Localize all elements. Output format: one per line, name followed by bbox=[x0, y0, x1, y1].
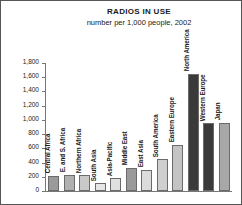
y-tick: 400 bbox=[1, 163, 46, 164]
bar bbox=[203, 123, 214, 191]
bar-group: Eastern Europe bbox=[172, 63, 183, 191]
bar-category-label: Eastern Europe bbox=[168, 98, 174, 143]
bar-category-label: Northern Africa bbox=[75, 129, 81, 173]
y-tick-label: 1,000 bbox=[23, 115, 39, 122]
chart-subtitle: number per 1,000 people, 2002 bbox=[35, 18, 242, 28]
y-tick-label: 1,200 bbox=[23, 101, 39, 108]
bar-group: Northern Africa bbox=[79, 63, 90, 191]
bar-category-label: South Asia bbox=[91, 150, 97, 182]
y-tick: 800 bbox=[1, 134, 46, 135]
bar bbox=[188, 74, 199, 191]
bar-series: Central AfricaE. and S. AfricaNorthern A… bbox=[46, 63, 232, 191]
bar bbox=[48, 176, 59, 191]
bar-category-label: E. and S. Africa bbox=[60, 128, 66, 172]
bar bbox=[64, 175, 75, 191]
bar-group: E. and S. Africa bbox=[64, 63, 75, 191]
bar-category-label: Middle East bbox=[122, 132, 128, 166]
bar-group: Japan bbox=[219, 63, 230, 191]
bar bbox=[157, 159, 168, 191]
y-tick-label: 600 bbox=[28, 143, 39, 150]
y-tick: 1,200 bbox=[1, 106, 46, 107]
y-tick-label: 200 bbox=[28, 172, 39, 179]
y-tick: 1,400 bbox=[1, 91, 46, 92]
y-tick: 0 bbox=[1, 191, 46, 192]
chart-header: RADIOS IN USE number per 1,000 people, 2… bbox=[1, 7, 242, 28]
y-tick: 600 bbox=[1, 148, 46, 149]
bar-category-label: North America bbox=[184, 30, 190, 72]
bar-group: Western Europe bbox=[203, 63, 214, 191]
bar bbox=[219, 123, 230, 191]
y-tick-label: 1,800 bbox=[23, 58, 39, 65]
bar-group: Central Africa bbox=[48, 63, 59, 191]
plot-area: 1,8001,6001,4001,2001,0008006004002000 C… bbox=[46, 63, 232, 191]
y-tick-label: 800 bbox=[28, 129, 39, 136]
bar-category-label: East Asia bbox=[137, 140, 143, 167]
y-tick-label: 1,400 bbox=[23, 86, 39, 93]
chart-page: RADIOS IN USE number per 1,000 people, 2… bbox=[0, 0, 242, 205]
y-tick: 1,800 bbox=[1, 63, 46, 64]
bar-category-label: South America bbox=[153, 114, 159, 157]
y-tick: 1,000 bbox=[1, 120, 46, 121]
y-tick-label: 400 bbox=[28, 158, 39, 165]
bar-group: South America bbox=[157, 63, 168, 191]
y-tick-mark bbox=[42, 191, 46, 192]
chart-title: RADIOS IN USE bbox=[35, 7, 242, 17]
y-tick-label: 0 bbox=[35, 186, 39, 193]
bar bbox=[110, 178, 121, 191]
bar-group: East Asia bbox=[141, 63, 152, 191]
bar bbox=[95, 183, 106, 191]
bar bbox=[141, 170, 152, 191]
bar-category-label: Japan bbox=[215, 103, 221, 121]
bar-group: Middle East bbox=[126, 63, 137, 191]
bar-group: Asia-Pacific bbox=[110, 63, 121, 191]
y-tick-label: 1,600 bbox=[23, 72, 39, 79]
x-axis-line bbox=[45, 191, 232, 192]
bar-category-label: Western Europe bbox=[199, 75, 205, 122]
bar-group: South Asia bbox=[95, 63, 106, 191]
bar-category-label: Asia-Pacific bbox=[106, 142, 112, 177]
y-tick: 200 bbox=[1, 177, 46, 178]
bar bbox=[79, 175, 90, 191]
bar bbox=[172, 145, 183, 191]
bar-category-label: Central Africa bbox=[44, 134, 50, 174]
bar-group: North America bbox=[188, 63, 199, 191]
bar bbox=[126, 168, 137, 191]
y-tick: 1,600 bbox=[1, 77, 46, 78]
